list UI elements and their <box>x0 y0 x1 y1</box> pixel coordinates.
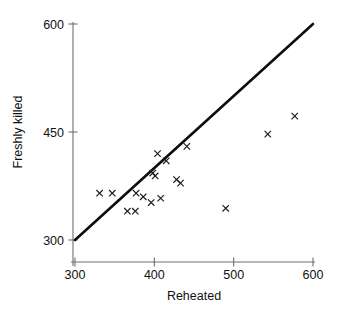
data-point <box>177 180 183 186</box>
data-point <box>292 113 298 119</box>
scatter-plot-figure: 300450600300400500600ReheatedFreshly kil… <box>0 0 344 316</box>
x-tick-label-400: 400 <box>144 268 165 282</box>
y-tick-label-600: 600 <box>43 18 64 32</box>
axes-group <box>69 22 316 267</box>
data-point <box>154 150 160 156</box>
data-point <box>184 143 190 149</box>
x-axis-title: Reheated <box>167 289 221 303</box>
x-tick-label-600: 600 <box>303 268 324 282</box>
data-point <box>148 199 154 205</box>
data-point <box>140 194 146 200</box>
x-tick-label-500: 500 <box>223 268 244 282</box>
data-point <box>223 205 229 211</box>
data-point <box>133 190 139 196</box>
x-tick-label-300: 300 <box>65 268 86 282</box>
identity-line <box>75 24 313 240</box>
data-point <box>96 190 102 196</box>
data-point <box>265 131 271 137</box>
y-axis-title: Freshly killed <box>11 95 25 168</box>
y-tick-label-300: 300 <box>43 234 64 248</box>
identity-line <box>75 24 313 240</box>
data-point <box>109 190 115 196</box>
y-tick-label-450: 450 <box>43 126 64 140</box>
data-point <box>157 195 163 201</box>
data-point <box>152 173 158 179</box>
data-point <box>124 208 130 214</box>
data-point <box>132 208 138 214</box>
plot-canvas: 300450600300400500600ReheatedFreshly kil… <box>0 0 344 316</box>
